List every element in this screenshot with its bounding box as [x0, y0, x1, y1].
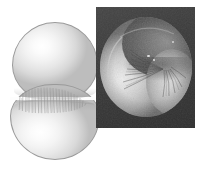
- figure-root: [0, 0, 213, 175]
- micrograph-cell: [100, 17, 192, 117]
- illustration-panel: [8, 22, 100, 160]
- micrograph-panel: [96, 7, 195, 128]
- micrograph-furrow-folds: [100, 17, 192, 117]
- illustration-cleavage-furrow: [14, 80, 96, 116]
